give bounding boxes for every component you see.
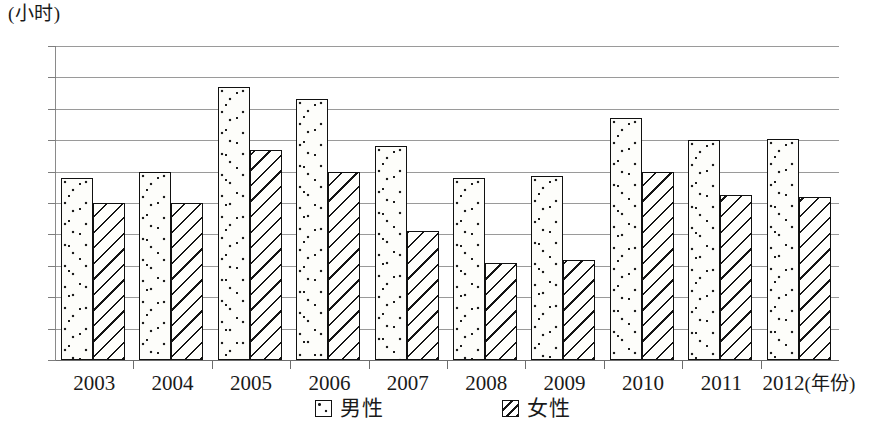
bar-女性-2010 [642,172,674,360]
bar-group [139,46,203,360]
x-axis-year-text: 2003 [73,371,115,395]
x-axis-tick-label-2003: 2003 [55,372,133,394]
hatched-square-icon [502,400,519,417]
bar-女性-2008 [485,263,517,360]
x-axis-tick [212,360,213,369]
x-axis-year-text: 2006 [308,371,350,395]
x-axis-tick-label-2011: 2011 [682,372,760,394]
x-axis-tick [447,360,448,369]
bars-layer [55,46,839,360]
bar-男性-2006 [296,99,328,360]
x-axis-year-text: 2011 [701,371,742,395]
x-axis-unit-label: (年份) [805,373,856,394]
x-axis-tick-label-2005: 2005 [212,372,290,394]
bar-男性-2005 [218,87,250,360]
x-axis-year-text: 2004 [152,371,194,395]
bar-女性-2011 [720,195,752,360]
x-axis-year-text: 2009 [544,371,586,395]
x-axis-tick-label-2008: 2008 [447,372,525,394]
x-axis-tick-label-2006: 2006 [290,372,368,394]
bar-女性-2006 [328,172,360,360]
bar-男性-2008 [453,178,485,360]
dotted-square-icon [315,400,332,417]
legend-item-female: 女性 [502,398,571,419]
chart-legend: 男性 女性 [0,398,885,419]
bar-女性-2012 [799,197,831,360]
bar-女性-2005 [250,150,282,360]
x-axis-tick [682,360,683,369]
x-axis-year-text: 2010 [622,371,664,395]
bar-group [453,46,517,360]
bar-女性-2004 [171,203,203,360]
bar-女性-2003 [93,203,125,360]
y-axis-unit-label: (小时) [8,2,61,26]
bar-男性-2010 [610,118,642,360]
bar-女性-2007 [407,231,439,360]
bar-男性-2012 [767,139,799,360]
bar-女性-2009 [563,260,595,360]
x-axis-year-text: 2005 [230,371,272,395]
bar-group [688,46,752,360]
bar-group [531,46,595,360]
bar-男性-2004 [139,172,171,360]
x-axis-year-text: 2007 [387,371,429,395]
bar-男性-2007 [375,146,407,360]
x-axis-tick [369,360,370,369]
bar-group [610,46,674,360]
x-axis-tick [290,360,291,369]
x-axis-tick-label-2012: 2012(年份) [763,372,856,395]
bar-男性-2003 [61,178,93,360]
bar-group [375,46,439,360]
bar-男性-2009 [531,176,563,360]
bar-group [218,46,282,360]
x-axis-tick [525,360,526,369]
x-axis-tick [133,360,134,369]
legend-label-male: 男性 [340,398,384,419]
bar-group [767,46,831,360]
x-axis-tick-label-2010: 2010 [604,372,682,394]
x-axis-tick-label-2007: 2007 [369,372,447,394]
bar-男性-2011 [688,140,720,360]
x-axis-tick [604,360,605,369]
y-axis-tick [48,360,56,361]
x-axis-tick-label-2004: 2004 [133,372,211,394]
x-axis-year-text: 2008 [465,371,507,395]
bar-group [296,46,360,360]
bar-chart: (小时) 5049484746454443424140 200320042005… [0,0,885,431]
bar-group [61,46,125,360]
x-axis-tick [761,360,762,369]
legend-label-female: 女性 [527,398,571,419]
x-axis-year-text: 2012 [763,371,805,395]
legend-item-male: 男性 [315,398,384,419]
x-axis-tick-label-2009: 2009 [525,372,603,394]
plot-area: 5049484746454443424140 20032004200520062… [55,46,839,360]
